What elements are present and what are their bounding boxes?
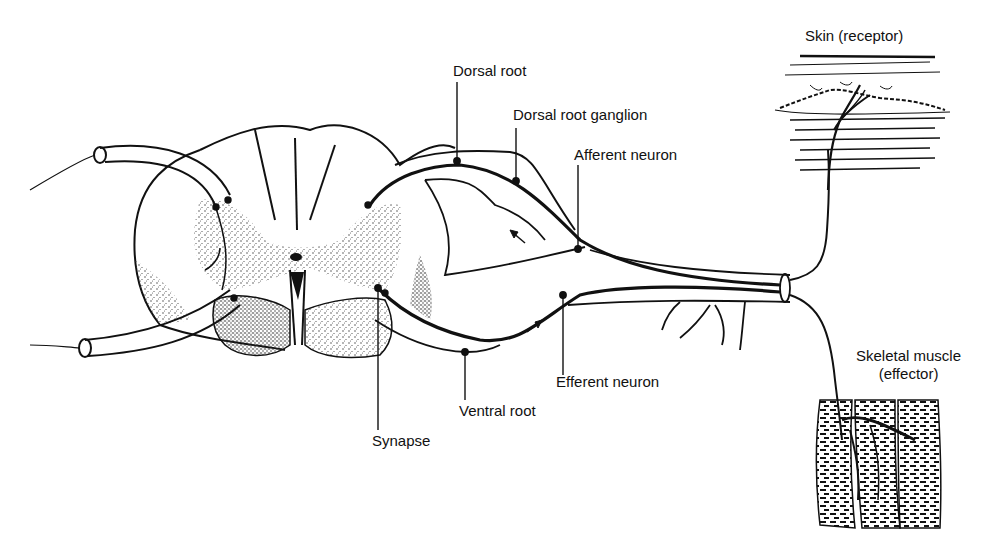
- grey-matter: [135, 199, 432, 357]
- skin-illustration: [775, 56, 950, 190]
- label-ventral-root: Ventral root: [459, 402, 536, 420]
- label-skeletal-muscle-line2: (effector): [856, 365, 961, 383]
- label-afferent-neuron: Afferent neuron: [574, 146, 677, 164]
- right-nerve: [370, 150, 842, 440]
- label-synapse: Synapse: [372, 432, 430, 450]
- label-dorsal-root: Dorsal root: [453, 62, 526, 80]
- reflex-arc-diagram: [0, 0, 1008, 546]
- label-dorsal-root-ganglion: Dorsal root ganglion: [513, 106, 647, 124]
- muscle-illustration: [816, 400, 941, 528]
- label-skeletal-muscle: Skeletal muscle (effector): [856, 347, 961, 383]
- label-skeletal-muscle-line1: Skeletal muscle: [856, 347, 961, 365]
- label-skin-receptor: Skin (receptor): [805, 27, 903, 45]
- label-efferent-neuron: Efferent neuron: [556, 373, 659, 391]
